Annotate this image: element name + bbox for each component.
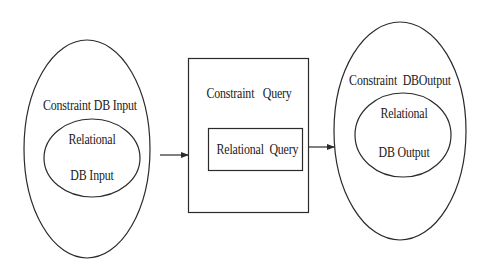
constraint-db-output-ellipse — [334, 22, 466, 240]
relational-query-label: Relational Query — [217, 141, 295, 157]
constraint-db-input-ellipse — [24, 40, 150, 258]
constraint-db-input-label: Constraint DB Input — [33, 97, 148, 113]
relational-db-output-label-line2: DB Output — [371, 144, 437, 160]
relational-db-input-label-line1: Relational — [59, 131, 125, 147]
relational-db-input-label-line2: DB Input — [59, 167, 125, 183]
constraint-db-output-label: Constraint DBOutput — [343, 72, 458, 88]
constraint-query-box — [189, 59, 309, 213]
constraint-query-label: Constraint Query — [201, 85, 298, 101]
relational-db-output-label-line1: Relational — [371, 105, 437, 121]
